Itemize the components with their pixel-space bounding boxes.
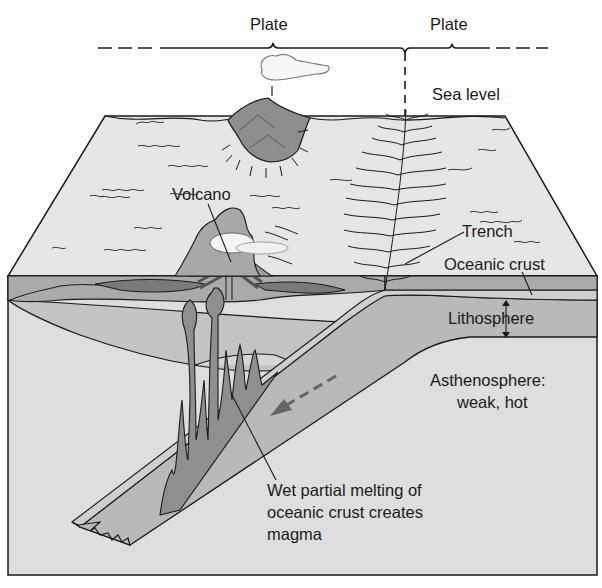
label-sea-level: Sea level bbox=[432, 85, 500, 103]
label-melting-line1: Wet partial melting of bbox=[267, 481, 422, 499]
label-melting-line3: magma bbox=[267, 525, 323, 543]
label-melting-line2: oceanic crust creates bbox=[267, 503, 423, 521]
label-asthenosphere: Asthenosphere: bbox=[430, 371, 546, 389]
label-plate-left: Plate bbox=[250, 15, 288, 33]
label-volcano: Volcano bbox=[172, 185, 231, 203]
plate-boundary-bracket bbox=[98, 43, 548, 116]
label-trench: Trench bbox=[462, 222, 513, 240]
label-asthenosphere-desc: weak, hot bbox=[456, 393, 528, 411]
label-oceanic-crust: Oceanic crust bbox=[444, 255, 545, 273]
label-plate-right: Plate bbox=[430, 15, 468, 33]
label-lithosphere: Lithosphere bbox=[448, 309, 534, 327]
subduction-diagram: Plate Plate Sea level Volcano Trench Oce… bbox=[0, 0, 602, 588]
